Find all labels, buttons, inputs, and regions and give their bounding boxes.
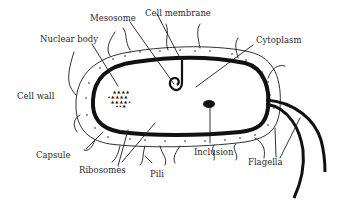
mesosome-shape	[170, 60, 182, 90]
label-cell-membrane: Cell membrane	[145, 8, 211, 18]
label-capsule: Capsule	[36, 150, 71, 160]
label-flagella: Flagella	[248, 157, 283, 167]
label-cytoplasm: Cytoplasm	[256, 35, 302, 45]
label-inclusion: Inclusion	[194, 147, 234, 157]
label-pili: Pili	[150, 169, 164, 179]
svg-text:▴ ▴ ▲: ▴ ▴ ▲	[116, 103, 127, 108]
label-cell-wall: Cell wall	[17, 91, 55, 101]
inclusion-body	[203, 100, 215, 108]
label-ribosomes: Ribosomes	[79, 165, 126, 175]
bacterial-cell-diagram: ▲ ▲ ▲ ▲ ▴ ▲ ▲ ▲ ▲ ▲ ▲ ▲ ▲ ▴ ▴ ▴ ▲	[0, 0, 339, 221]
flagellum-1	[266, 104, 303, 198]
nuclear-body-dots: ▲ ▲ ▲ ▲ ▴ ▲ ▲ ▲ ▲ ▲ ▲ ▲ ▲ ▴ ▴ ▴ ▲	[108, 89, 130, 108]
label-mesosome: Mesosome	[90, 13, 136, 23]
label-nuclear-body: Nuclear body	[40, 34, 98, 44]
